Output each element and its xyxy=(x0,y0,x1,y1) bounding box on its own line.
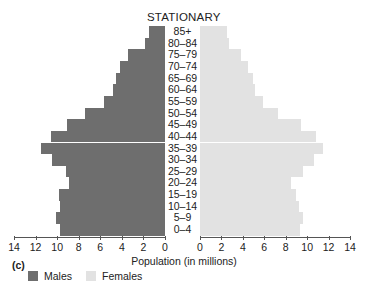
tick-mark xyxy=(36,236,37,240)
tick-label: 8 xyxy=(276,241,296,253)
male-bar xyxy=(67,119,165,131)
male-bar xyxy=(116,73,165,85)
tick-label: 12 xyxy=(26,241,46,253)
female-bar xyxy=(200,143,323,155)
female-bar xyxy=(200,38,229,50)
age-group-label: 55–59 xyxy=(165,96,200,108)
tick-label: 12 xyxy=(319,241,339,253)
female-bar xyxy=(200,131,316,143)
tick-mark xyxy=(286,236,287,240)
female-bar xyxy=(200,26,227,38)
tick-mark xyxy=(57,236,58,240)
female-bar xyxy=(200,166,303,178)
female-bar xyxy=(200,84,255,96)
age-group-label: 15–19 xyxy=(165,189,200,201)
panel-label: (c) xyxy=(12,259,25,271)
tick-mark xyxy=(307,236,308,240)
female-bar xyxy=(200,154,314,166)
female-bar xyxy=(200,189,296,201)
female-bar xyxy=(200,49,241,61)
male-bar xyxy=(51,131,165,143)
females-swatch xyxy=(86,271,96,281)
tick-label: 10 xyxy=(47,241,67,253)
tick-label: 6 xyxy=(254,241,274,253)
tick-label: 2 xyxy=(133,241,153,253)
x-axis-label: Population (in millions) xyxy=(0,255,368,267)
tick-mark xyxy=(122,236,123,240)
female-bar xyxy=(200,212,303,224)
tick-mark xyxy=(14,236,15,240)
male-bar xyxy=(145,38,165,50)
legend-label-males: Males xyxy=(44,270,72,282)
male-bar xyxy=(120,61,165,73)
tick-mark xyxy=(143,236,144,240)
female-bar xyxy=(200,108,278,120)
female-bar xyxy=(200,96,263,108)
age-group-label: 0–4 xyxy=(165,224,200,236)
legend-item-females: Females xyxy=(86,270,142,282)
male-bar xyxy=(149,26,165,38)
male-bar xyxy=(128,49,165,61)
tick-label: 4 xyxy=(233,241,253,253)
tick-mark xyxy=(165,236,166,240)
tick-mark xyxy=(200,236,201,240)
male-bar xyxy=(60,224,165,236)
tick-mark xyxy=(329,236,330,240)
tick-mark xyxy=(221,236,222,240)
male-bar xyxy=(41,143,165,155)
tick-label: 14 xyxy=(4,241,24,253)
female-bar xyxy=(200,73,253,85)
female-bar xyxy=(200,201,299,213)
male-bar xyxy=(85,108,165,120)
female-bar xyxy=(200,61,248,73)
tick-label: 2 xyxy=(211,241,231,253)
tick-label: 4 xyxy=(112,241,132,253)
age-group-label: 70–74 xyxy=(165,61,200,73)
female-bar xyxy=(200,224,300,236)
legend-label-females: Females xyxy=(102,270,142,282)
tick-mark xyxy=(264,236,265,240)
male-bar xyxy=(60,201,165,213)
male-bar xyxy=(66,166,165,178)
male-bar xyxy=(113,84,165,96)
males-swatch xyxy=(28,271,38,281)
female-bar xyxy=(200,119,301,131)
tick-mark xyxy=(79,236,80,240)
legend-item-males: Males xyxy=(28,270,72,282)
tick-label: 0 xyxy=(155,241,175,253)
tick-label: 0 xyxy=(190,241,210,253)
tick-label: 6 xyxy=(90,241,110,253)
tick-mark xyxy=(243,236,244,240)
male-bar xyxy=(56,212,165,224)
male-bar xyxy=(52,154,165,166)
tick-label: 14 xyxy=(340,241,360,253)
age-group-label: 85+ xyxy=(165,26,200,38)
tick-mark xyxy=(350,236,351,240)
tick-label: 8 xyxy=(69,241,89,253)
male-bar xyxy=(69,177,165,189)
legend: Males Females xyxy=(28,270,156,282)
female-bar xyxy=(200,177,291,189)
tick-label: 10 xyxy=(297,241,317,253)
age-group-label: 40–44 xyxy=(165,131,200,143)
male-bar xyxy=(59,189,165,201)
male-bar xyxy=(104,96,165,108)
tick-mark xyxy=(100,236,101,240)
